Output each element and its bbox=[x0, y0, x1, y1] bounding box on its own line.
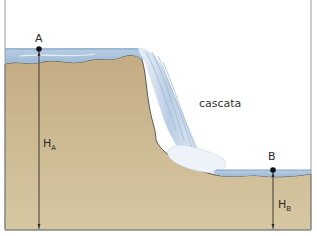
waterfall-diagram: cascata A B HA HB bbox=[0, 0, 317, 236]
height-a-subscript: A bbox=[51, 144, 56, 152]
height-a-label: HA bbox=[43, 138, 56, 149]
point-b-marker-icon bbox=[270, 167, 276, 173]
height-b-subscript: B bbox=[286, 205, 291, 213]
height-b-label: HB bbox=[278, 199, 291, 210]
point-a-marker-icon bbox=[36, 46, 42, 52]
point-b-label: B bbox=[268, 151, 276, 162]
waterfall-label: cascata bbox=[199, 98, 241, 109]
point-a-label: A bbox=[35, 33, 43, 44]
diagram-canvas bbox=[0, 0, 317, 236]
